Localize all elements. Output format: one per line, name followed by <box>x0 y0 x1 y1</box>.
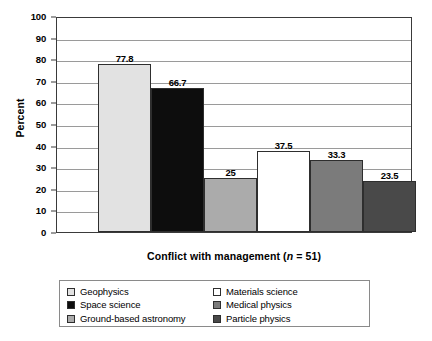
legend-label: Ground-based astronomy <box>80 314 186 324</box>
gridline <box>57 40 411 41</box>
legend-swatch-icon <box>213 288 221 296</box>
bar-value-label: 25 <box>204 168 257 178</box>
legend-item[interactable]: Particle physics <box>213 312 298 325</box>
y-tick-label: 60 <box>36 99 46 109</box>
y-tick-label: 30 <box>36 163 46 173</box>
y-tick-label: 20 <box>36 185 46 195</box>
legend: GeophysicsSpace scienceGround-based astr… <box>59 280 370 327</box>
bar-ground-based-astronomy <box>204 178 257 232</box>
x-axis-title-suffix: = 51) <box>293 250 321 262</box>
legend-label: Space science <box>80 300 141 310</box>
bar-geophysics <box>98 64 151 232</box>
legend-label: Materials science <box>226 287 298 297</box>
bar-value-label: 33.3 <box>310 150 363 160</box>
bar-value-label: 77.8 <box>98 54 151 64</box>
bar-materials-science <box>257 151 310 232</box>
y-tick-label: 80 <box>36 55 46 65</box>
y-tick-label: 0 <box>41 228 46 238</box>
bar-value-label: 66.7 <box>151 78 204 88</box>
bar-medical-physics <box>310 160 363 232</box>
y-tick-label: 100 <box>31 12 46 22</box>
legend-label: Particle physics <box>226 314 290 324</box>
y-tick-label: 10 <box>36 207 46 217</box>
y-tick-label: 70 <box>36 77 46 87</box>
legend-item[interactable]: Ground-based astronomy <box>67 312 186 325</box>
bar-value-label: 23.5 <box>363 171 416 181</box>
y-tick-label: 40 <box>36 142 46 152</box>
legend-item[interactable]: Materials science <box>213 285 298 298</box>
legend-swatch-icon <box>67 288 75 296</box>
legend-column-right: Materials scienceMedical physicsParticle… <box>213 285 298 326</box>
legend-swatch-icon <box>67 315 75 323</box>
y-axis: Percent 0102030405060708090100 <box>0 0 56 250</box>
plot-area: 77.866.72537.533.323.5 <box>56 17 412 233</box>
bar-space-science <box>151 88 204 232</box>
legend-swatch-icon <box>213 315 221 323</box>
legend-swatch-icon <box>67 301 75 309</box>
legend-swatch-icon <box>213 301 221 309</box>
x-axis-title: Conflict with management (n = 51) <box>56 250 412 262</box>
y-axis-title: Percent <box>14 68 26 168</box>
x-axis-title-prefix: Conflict with management ( <box>147 250 287 262</box>
legend-column-left: GeophysicsSpace scienceGround-based astr… <box>67 285 186 326</box>
y-tick-label: 90 <box>36 34 46 44</box>
legend-label: Medical physics <box>226 300 292 310</box>
y-tick-label: 50 <box>36 120 46 130</box>
legend-item[interactable]: Medical physics <box>213 299 298 312</box>
legend-item[interactable]: Space science <box>67 299 186 312</box>
bar-chart: Percent 0102030405060708090100 77.866.72… <box>0 0 432 341</box>
bar-value-label: 37.5 <box>257 141 310 151</box>
legend-item[interactable]: Geophysics <box>67 285 186 298</box>
bar-particle-physics <box>363 181 416 232</box>
legend-label: Geophysics <box>80 287 129 297</box>
